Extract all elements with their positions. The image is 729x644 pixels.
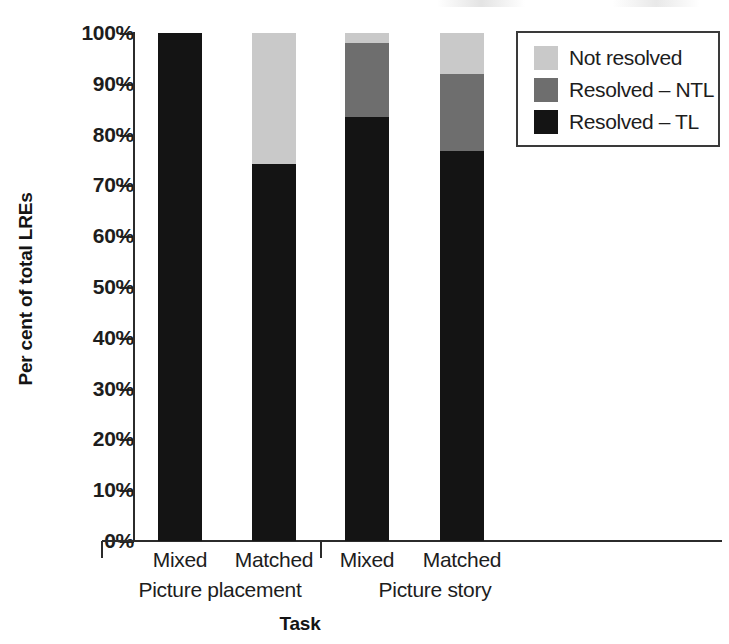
legend-item: Not resolved <box>534 42 718 74</box>
bar-segment <box>158 33 202 541</box>
x-group-label-picture-placement: Picture placement <box>105 578 335 602</box>
y-axis-tick-label: 10% <box>30 479 134 500</box>
x-axis-title: Task <box>0 613 600 635</box>
y-axis-tick-label: 70% <box>30 174 134 195</box>
x-group-label-picture-story: Picture story <box>320 578 550 602</box>
plot-area <box>134 33 520 541</box>
bar-2 <box>252 33 296 541</box>
bar-segment <box>345 43 389 117</box>
bar-1 <box>158 33 202 541</box>
bar-3 <box>345 33 389 541</box>
bar-segment <box>440 74 484 151</box>
bar-segment <box>252 164 296 541</box>
bar-4 <box>440 33 484 541</box>
y-axis-tick-label: 50% <box>30 276 134 297</box>
y-axis-tick-label: 30% <box>30 378 134 399</box>
y-axis-tick-label: 90% <box>30 73 134 94</box>
bar-segment <box>252 33 296 164</box>
legend-item: Resolved – NTL <box>534 74 718 106</box>
y-axis-tick-label: 40% <box>30 327 134 348</box>
y-axis-tick-label: 80% <box>30 124 134 145</box>
bar-segment <box>345 33 389 43</box>
x-axis-group-separator <box>101 541 103 558</box>
chart-legend: Not resolvedResolved – NTLResolved – TL <box>516 31 720 147</box>
legend-swatch-icon <box>534 78 558 102</box>
bar-segment <box>440 33 484 74</box>
legend-item: Resolved – TL <box>534 106 718 138</box>
y-axis-tick-label: 60% <box>30 225 134 246</box>
legend-label: Resolved – NTL <box>569 78 714 102</box>
legend-label: Not resolved <box>569 46 682 70</box>
legend-label: Resolved – TL <box>569 110 699 134</box>
chart-figure: Per cent of total LREs 100%90%80%70%60%5… <box>0 0 729 644</box>
bar-segment <box>345 117 389 541</box>
legend-swatch-icon <box>534 46 558 70</box>
x-label-bar4: Matched <box>402 548 522 572</box>
legend-swatch-icon <box>534 110 558 134</box>
bar-segment <box>440 151 484 541</box>
y-axis-tick-label: 100% <box>30 22 134 43</box>
y-axis-tick-label: 20% <box>30 428 134 449</box>
scan-artifact <box>0 0 729 7</box>
